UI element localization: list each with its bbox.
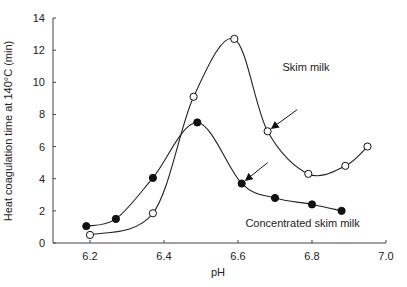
annotations: Skim milkConcentrated skim milk xyxy=(245,61,360,229)
skim-milk-data-point xyxy=(264,128,271,135)
x-tick-label: 6.4 xyxy=(156,250,171,262)
y-tick-label: 0 xyxy=(39,237,45,249)
x-tick-label: 6.6 xyxy=(230,250,245,262)
concentrated-skim-milk-data-point xyxy=(194,119,201,126)
concentrated-skim-milk-data-point xyxy=(338,207,345,214)
arrow-annotation xyxy=(272,110,297,128)
x-tick-label: 7.0 xyxy=(378,250,393,262)
arrow-annotation xyxy=(246,163,267,180)
concentrated-skim-milk-data-point xyxy=(238,180,245,187)
skim-milk-data-point xyxy=(190,93,197,100)
concentrated-skim-milk-curve xyxy=(86,122,341,226)
y-tick-label: 6 xyxy=(39,141,45,153)
y-axis-label: Heat coagulation time at 140°C (min) xyxy=(2,41,14,222)
y-tick-label: 8 xyxy=(39,108,45,120)
y-tick-label: 2 xyxy=(39,205,45,217)
x-axis-label: pH xyxy=(211,266,225,278)
skim-milk-data-point xyxy=(364,143,371,150)
skim-milk-data-point xyxy=(342,162,349,169)
y-tick-label: 4 xyxy=(39,173,45,185)
concentrated-skim-milk-data-point xyxy=(83,223,90,230)
y-tick-label: 12 xyxy=(33,44,45,56)
skim-milk-data-point xyxy=(305,170,312,177)
concentrated-skim-milk-data-point xyxy=(112,215,119,222)
heat-coagulation-chart: 6.26.46.66.87.002468101214 Skim milkConc… xyxy=(0,0,407,287)
y-tick-label: 14 xyxy=(33,12,45,24)
concentrated-skim-milk-data-point xyxy=(308,201,315,208)
x-tick-label: 6.8 xyxy=(304,250,319,262)
concentrated-skim-milk-label: Concentrated skim milk xyxy=(245,217,360,229)
skim-milk-label: Skim milk xyxy=(282,61,330,73)
x-tick-label: 6.2 xyxy=(82,250,97,262)
concentrated-skim-milk-data-point xyxy=(149,174,156,181)
y-tick-label: 10 xyxy=(33,76,45,88)
skim-milk-data-point xyxy=(149,210,156,217)
concentrated-skim-milk-data-point xyxy=(271,194,278,201)
skim-milk-data-point xyxy=(231,35,238,42)
skim-milk-data-point xyxy=(86,231,93,238)
